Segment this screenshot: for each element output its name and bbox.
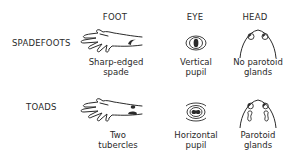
caption-toad-foot: Two tubercles [96, 130, 140, 150]
row-label-toads: TOADS [26, 102, 57, 112]
caption-line: Two [96, 130, 140, 140]
caption-toad-head: Parotoid glands [230, 130, 286, 150]
caption-line: tubercles [96, 140, 140, 150]
caption-line: Horizontal [168, 130, 224, 140]
caption-spadefoot-eye: Vertical pupil [172, 57, 220, 77]
column-header-eye: EYE [180, 12, 210, 22]
column-header-foot: FOOT [95, 12, 135, 22]
caption-line: Parotoid [230, 130, 286, 140]
caption-line: Sharp-edged [86, 57, 146, 67]
caption-line: spade [86, 67, 146, 77]
caption-line: Vertical [172, 57, 220, 67]
caption-spadefoot-foot: Sharp-edged spade [86, 57, 146, 77]
caption-line: glands [230, 140, 286, 150]
caption-line: No parotoid [226, 57, 290, 67]
eye-horizontal-pupil-icon [183, 100, 209, 124]
caption-line: pupil [168, 140, 224, 150]
caption-line: glands [226, 67, 290, 77]
foot-with-spade-icon [76, 28, 146, 58]
foot-with-two-tubercles-icon [76, 97, 146, 127]
caption-toad-eye: Horizontal pupil [168, 130, 224, 150]
eye-vertical-pupil-icon [184, 33, 208, 53]
head-no-parotoid-icon [236, 27, 280, 59]
row-label-spadefoots: SPADEFOOTS [12, 38, 71, 48]
caption-spadefoot-head: No parotoid glands [226, 57, 290, 77]
column-header-head: HEAD [230, 12, 280, 22]
head-parotoid-glands-icon [236, 97, 280, 129]
caption-line: pupil [172, 67, 220, 77]
